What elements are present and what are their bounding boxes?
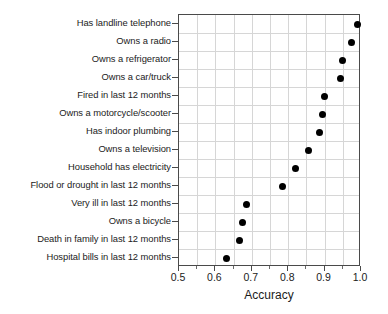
y-axis-label: Owns a radio: [0, 36, 171, 46]
y-axis-label: Owns a refrigerator: [0, 54, 171, 64]
horizontal-gridline: [179, 213, 359, 214]
y-axis-label: Flood or drought in last 12 months: [0, 180, 171, 190]
x-axis-minor-tick: [342, 266, 343, 269]
vertical-gridline: [325, 15, 326, 265]
y-axis-label: Owns a bicycle: [0, 216, 171, 226]
vertical-gridline: [288, 15, 289, 265]
data-point: [319, 111, 326, 118]
data-point: [239, 219, 246, 226]
horizontal-gridline: [179, 195, 359, 196]
horizontal-gridline: [179, 159, 359, 160]
data-point: [316, 129, 323, 136]
vertical-gridline: [197, 15, 198, 265]
y-axis-label: Has landline telephone: [0, 18, 171, 28]
y-axis-tick: [172, 41, 178, 42]
y-axis-label: Owns a television: [0, 144, 171, 154]
dot-plot-figure: Has landline telephoneOwns a radioOwns a…: [0, 0, 388, 314]
data-point: [292, 165, 299, 172]
x-axis-minor-tick: [305, 266, 306, 269]
data-point: [354, 21, 361, 28]
vertical-gridline: [234, 15, 235, 265]
horizontal-gridline: [179, 33, 359, 34]
horizontal-gridline: [179, 141, 359, 142]
y-axis-category-labels: Has landline telephoneOwns a radioOwns a…: [0, 14, 171, 266]
x-axis-tick-label: 0.8: [267, 271, 307, 283]
y-axis-label: Owns a motorcycle/scooter: [0, 108, 171, 118]
data-point: [243, 201, 250, 208]
y-axis-tick: [172, 95, 178, 96]
y-axis-label: Household has electricity: [0, 162, 171, 172]
y-axis-tick: [172, 77, 178, 78]
y-axis-tick: [172, 221, 178, 222]
x-axis-tick-label: 0.9: [304, 271, 344, 283]
x-axis-minor-tick: [233, 266, 234, 269]
x-axis-minor-tick: [196, 266, 197, 269]
horizontal-gridline: [179, 69, 359, 70]
horizontal-gridline: [179, 249, 359, 250]
y-axis-tick: [172, 23, 178, 24]
vertical-gridline: [252, 15, 253, 265]
x-axis-tick-label: 1.0: [340, 271, 380, 283]
y-axis-tick: [172, 131, 178, 132]
data-point: [236, 237, 243, 244]
y-axis-tick: [172, 113, 178, 114]
data-point: [279, 183, 286, 190]
plot-area: [178, 14, 360, 266]
horizontal-gridline: [179, 51, 359, 52]
y-axis-tick: [172, 257, 178, 258]
x-axis-title: Accuracy: [178, 288, 360, 302]
y-axis-tick: [172, 167, 178, 168]
vertical-gridline: [306, 15, 307, 265]
x-axis-minor-tick: [269, 266, 270, 269]
vertical-gridline: [215, 15, 216, 265]
y-axis-tick: [172, 203, 178, 204]
data-point: [348, 39, 355, 46]
y-axis-label: Owns a car/truck: [0, 72, 171, 82]
x-axis-tick-label: 0.6: [194, 271, 234, 283]
x-axis-tick-label: 0.5: [158, 271, 198, 283]
y-axis-tick: [172, 149, 178, 150]
horizontal-gridline: [179, 105, 359, 106]
y-axis-tick: [172, 59, 178, 60]
y-axis-label: Has indoor plumbing: [0, 126, 171, 136]
y-axis-label: Very ill in last 12 months: [0, 198, 171, 208]
y-axis-label: Fired in last 12 months: [0, 90, 171, 100]
horizontal-gridline: [179, 177, 359, 178]
horizontal-gridline: [179, 87, 359, 88]
data-point: [321, 93, 328, 100]
vertical-gridline: [270, 15, 271, 265]
vertical-gridline: [343, 15, 344, 265]
y-axis-tick: [172, 239, 178, 240]
data-point: [339, 57, 346, 64]
horizontal-gridline: [179, 231, 359, 232]
x-axis-tick-label: 0.7: [231, 271, 271, 283]
data-point: [305, 147, 312, 154]
y-axis-tick: [172, 185, 178, 186]
y-axis-label: Hospital bills in last 12 months: [0, 252, 171, 262]
data-point: [223, 255, 230, 262]
y-axis-label: Death in family in last 12 months: [0, 234, 171, 244]
horizontal-gridline: [179, 123, 359, 124]
